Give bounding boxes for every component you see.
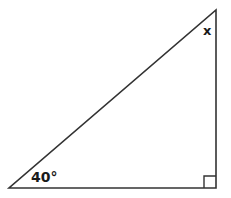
known-angle-label: 40°: [31, 170, 57, 184]
triangle-diagram: 40° x: [0, 0, 231, 198]
right-angle-marker: [204, 176, 216, 188]
unknown-angle-label: x: [203, 24, 211, 37]
triangle-outline: [9, 10, 216, 188]
